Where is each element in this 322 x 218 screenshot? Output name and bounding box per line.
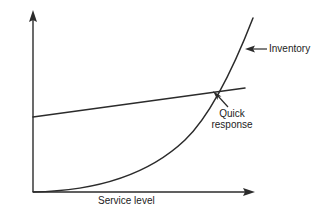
chart-canvas [0,0,322,218]
y-axis [29,10,37,192]
quick-response-annotation-label: Quick response [203,108,261,130]
inventory-curve [33,18,253,192]
quick-response-annotation-line2: response [211,119,252,130]
x-axis-label-text: Service level [98,195,155,206]
quick-response-leader-line [218,96,228,107]
inventory-annotation-label: Inventory [269,43,310,54]
inventory-callout-arrow [245,46,267,53]
y-axis-label: Cost [0,98,29,112]
inventory-annotation-text: Inventory [269,43,310,54]
chart-figure: Cost Service level Inventory Quick respo… [0,0,322,218]
x-axis-label: Service level [98,195,155,206]
quick-response-annotation-line1: Quick [219,108,245,119]
